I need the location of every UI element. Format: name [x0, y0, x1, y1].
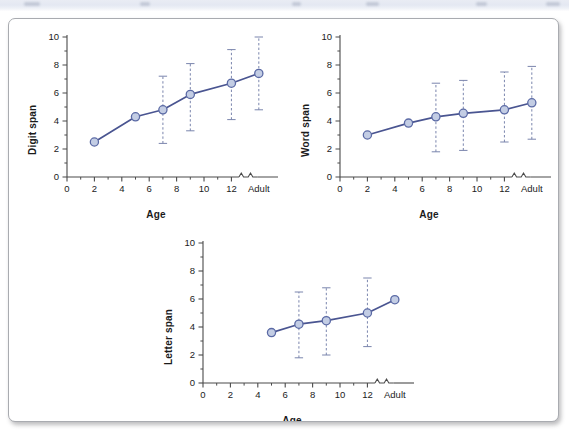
y-tick-label: 0: [54, 171, 59, 182]
data-point-marker: [227, 79, 235, 87]
x-tick-label-adult: Adult: [248, 183, 270, 194]
data-point-marker: [159, 106, 167, 114]
data-point-marker: [90, 138, 98, 146]
y-tick-label: 4: [54, 115, 59, 126]
x-tick-label: 4: [392, 183, 397, 194]
y-tick-label: 4: [327, 115, 332, 126]
x-tick-label: 8: [310, 389, 315, 400]
x-tick-label: 12: [226, 183, 237, 194]
x-tick-label: 0: [337, 183, 342, 194]
data-point-marker: [267, 329, 275, 337]
y-tick-label: 10: [48, 31, 59, 42]
x-axis-label-digit-span: Age: [51, 209, 261, 220]
y-tick-label: 8: [190, 265, 195, 276]
x-tick-label: 12: [362, 389, 373, 400]
y-tick-label: 0: [327, 171, 332, 182]
x-tick-label: 12: [499, 183, 510, 194]
x-tick-label: 10: [199, 183, 210, 194]
y-tick-label: 2: [327, 143, 332, 154]
x-tick-label: 8: [174, 183, 179, 194]
x-axis-label-word-span: Age: [324, 209, 534, 220]
chart-word-span: Word span Age 0246810024681012Adult: [294, 25, 556, 225]
y-tick-label: 4: [190, 321, 195, 332]
figure-card: Digit span Age 0246810024681012Adult Wor…: [8, 18, 559, 422]
plot-area-letter-span: 0246810024681012Adult: [157, 231, 419, 413]
x-tick-label: 2: [228, 389, 233, 400]
data-point-marker: [459, 109, 467, 117]
y-tick-label: 8: [327, 59, 332, 70]
x-tick-label-adult: Adult: [384, 389, 406, 400]
x-tick-label: 10: [472, 183, 483, 194]
chart-digit-span: Digit span Age 0246810024681012Adult: [21, 25, 283, 225]
x-tick-label: 6: [420, 183, 425, 194]
y-tick-label: 0: [190, 377, 195, 388]
y-tick-label: 2: [54, 143, 59, 154]
x-tick-label: 8: [447, 183, 452, 194]
data-point-marker: [528, 99, 536, 107]
y-axis-label-word-span: Word span: [300, 104, 311, 157]
plot-area-digit-span: 0246810024681012Adult: [21, 25, 283, 207]
y-axis-label-letter-span: Letter span: [163, 309, 174, 365]
data-point-marker: [500, 106, 508, 114]
x-tick-label: 4: [119, 183, 124, 194]
data-point-marker: [363, 309, 371, 317]
x-tick-label: 4: [255, 389, 260, 400]
y-tick-label: 6: [327, 87, 332, 98]
y-tick-label: 6: [190, 293, 195, 304]
plot-area-word-span: 0246810024681012Adult: [294, 25, 556, 207]
data-point-marker: [432, 113, 440, 121]
data-point-marker: [391, 296, 399, 304]
y-tick-label: 2: [190, 349, 195, 360]
data-point-marker: [186, 90, 194, 98]
x-tick-label: 0: [64, 183, 69, 194]
y-tick-label: 10: [321, 31, 332, 42]
y-tick-label: 10: [184, 237, 195, 248]
y-axis-label-digit-span: Digit span: [27, 105, 38, 155]
data-point-marker: [322, 317, 330, 325]
data-point-marker: [255, 69, 263, 77]
x-tick-label: 10: [335, 389, 346, 400]
x-tick-label: 2: [92, 183, 97, 194]
data-point-marker: [404, 119, 412, 127]
x-tick-label: 0: [200, 389, 205, 400]
x-tick-label: 6: [147, 183, 152, 194]
chart-letter-span: Letter span Age 0246810024681012Adult: [157, 231, 419, 422]
data-point-marker: [131, 113, 139, 121]
x-tick-label: 2: [365, 183, 370, 194]
data-point-marker: [295, 320, 303, 328]
x-tick-label: 6: [283, 389, 288, 400]
x-tick-label-adult: Adult: [521, 183, 543, 194]
y-tick-label: 8: [54, 59, 59, 70]
x-axis-label-letter-span: Age: [187, 415, 397, 422]
data-point-marker: [363, 131, 371, 139]
page-top-band: [0, 0, 569, 11]
y-tick-label: 6: [54, 87, 59, 98]
